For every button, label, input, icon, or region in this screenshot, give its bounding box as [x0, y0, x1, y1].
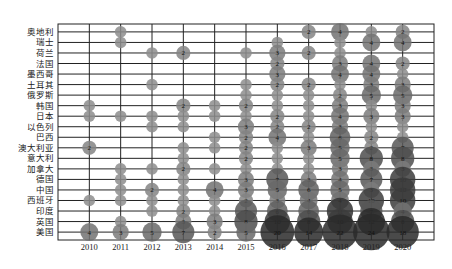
y-tick-label: 西班牙: [27, 195, 54, 205]
bubble-value: 14: [305, 229, 313, 237]
bubble-value: 3: [213, 218, 217, 226]
y-tick-label: 土耳其: [27, 80, 54, 90]
y-tick-label: 加拿大: [27, 164, 54, 174]
bubble-value: 4: [401, 39, 405, 47]
bubble: [209, 131, 221, 143]
x-tick-label: 2017: [300, 242, 317, 252]
y-tick-label: 韩国: [36, 101, 54, 111]
bubble: [272, 142, 284, 154]
bubble-value: 5: [150, 229, 154, 237]
bubble: [209, 163, 221, 175]
bubble-value: 2: [244, 144, 248, 152]
bubble: [146, 163, 158, 175]
bubble-value: 4: [338, 71, 342, 79]
bubble-value: 4: [370, 39, 374, 47]
bubble-value: 20: [274, 229, 282, 237]
bubble: [303, 100, 315, 112]
bubble: [146, 121, 158, 133]
bubble-value: 7: [182, 229, 186, 237]
y-tick-label: 意大利: [27, 153, 54, 163]
bubble: [84, 100, 96, 112]
bubble: [84, 110, 96, 122]
bubble: [115, 110, 127, 122]
bubble-value: 2: [401, 60, 405, 68]
x-tick-label: 2018: [332, 242, 349, 252]
bubble: [272, 89, 284, 101]
bubble-value: 4: [338, 28, 342, 36]
bubble-value: 2: [307, 49, 311, 57]
bubble: [209, 142, 221, 154]
bubble: [146, 79, 158, 91]
bubble: [178, 142, 190, 154]
bubble-chart: 2424423223423442233255223324333223246222…: [0, 0, 452, 269]
y-tick-label: 瑞士: [36, 37, 54, 47]
bubble: [303, 89, 315, 101]
x-tick-label: 2014: [206, 242, 224, 252]
y-tick-label: 巴西: [36, 132, 54, 142]
x-tick-label: 2010: [81, 242, 98, 252]
y-tick-label: 美国: [36, 227, 54, 237]
bubble: [303, 153, 315, 165]
bubble: [209, 100, 221, 112]
y-tick-label: 澳大利亚: [18, 143, 54, 153]
y-tick-label: 印度: [36, 206, 54, 216]
bubble: [334, 37, 346, 49]
bubble: [178, 110, 190, 122]
y-tick-label: 荷兰: [36, 48, 54, 58]
bubble: [178, 121, 190, 133]
bubble: [115, 37, 127, 49]
x-tick-label: 2016: [269, 242, 286, 252]
bubble: [115, 26, 127, 38]
bubble-value: 3: [401, 113, 405, 121]
bubble: [178, 184, 190, 196]
bubble: [146, 205, 158, 217]
bubble: [209, 195, 221, 207]
y-tick-label: 德国: [36, 174, 54, 184]
bubble: [178, 174, 190, 186]
bubble-value: 3: [370, 113, 374, 121]
bubble-value: 2: [307, 81, 311, 89]
bubble-value: 3: [276, 71, 280, 79]
bubble-value: 5: [370, 92, 374, 100]
bubble: [209, 110, 221, 122]
bubble-value: 2: [182, 165, 186, 173]
bubble-value: 22: [337, 229, 345, 237]
bubble-value: 24: [368, 229, 376, 237]
bubble: [146, 195, 158, 207]
x-tick-label: 2020: [394, 242, 411, 252]
bubble: [115, 195, 127, 207]
bubble-value: 4: [276, 134, 280, 142]
bubble: [240, 79, 252, 91]
bubble-value: 3: [307, 144, 311, 152]
bubble-value: 2: [150, 186, 154, 194]
bubble-value: 2: [213, 229, 217, 237]
bubble: [84, 195, 96, 207]
bubble-value: 5: [244, 229, 248, 237]
bubble-value: 2: [244, 134, 248, 142]
x-tick-label: 2019: [363, 242, 380, 252]
bubble-value: 3: [244, 123, 248, 131]
bubble-value: 2: [370, 134, 374, 142]
bubble: [272, 153, 284, 165]
bubble: [397, 121, 409, 133]
bubble-value: 3: [276, 49, 280, 57]
bubble-value: 2: [244, 155, 248, 163]
y-tick-label: 以色列: [27, 122, 54, 132]
bubble: [115, 184, 127, 196]
bubble: [240, 47, 252, 59]
bubble-value: 18: [399, 229, 407, 237]
bubble-value: 3: [244, 186, 248, 194]
y-tick-label: 墨西哥: [27, 69, 54, 79]
y-tick-label: 英国: [36, 217, 54, 227]
bubble-value: 2: [88, 144, 92, 152]
bubble-value: 2: [244, 102, 248, 110]
bubble-value: 3: [119, 229, 123, 237]
bubble-value: 2: [182, 49, 186, 57]
bubble-value: 2: [182, 102, 186, 110]
bubble-value: 2: [307, 123, 311, 131]
y-tick-label: 奥地利: [27, 27, 54, 37]
x-tick-label: 2011: [112, 242, 129, 252]
x-tick-label: 2013: [175, 242, 192, 252]
bubble-value: 2: [307, 28, 311, 36]
y-tick-label: 俄罗斯: [27, 90, 54, 100]
